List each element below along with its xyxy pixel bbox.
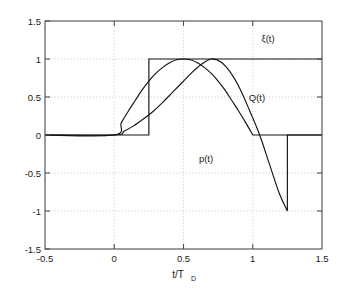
x-tick-labels: -0.5 0 0.5 1 1.5 <box>37 253 329 264</box>
ytick-label-1: 1 <box>36 54 41 65</box>
chart-plot: 1.5 1 0.5 0 -0.5 -1 -1.5 -0.5 0 0.5 1 1.… <box>0 0 349 296</box>
ytick-label-1-5: 1.5 <box>28 16 41 27</box>
p-curve-label: p(t) <box>199 153 213 164</box>
ytick-label-0-5: 0.5 <box>28 92 41 103</box>
q-curve-label: Q(t) <box>249 92 265 103</box>
figure-canvas: 1.5 1 0.5 0 -0.5 -1 -1.5 -0.5 0 0.5 1 1.… <box>0 0 349 296</box>
xtick-label-1: 1 <box>250 253 255 264</box>
ytick-label-neg-1: -1 <box>33 206 41 217</box>
x-axis-title: t/T D <box>172 269 196 282</box>
ytick-label-neg-0-5: -0.5 <box>25 168 41 179</box>
xi-curve-label: ξ(t) <box>261 33 274 44</box>
xtick-label-0-5: 0.5 <box>177 253 190 264</box>
xtick-label-0: 0 <box>112 253 117 264</box>
x-axis-title-main: t/T <box>172 269 184 280</box>
ytick-label-0: 0 <box>36 130 41 141</box>
xtick-label-1-5: 1.5 <box>315 253 328 264</box>
xtick-label-neg-0-5: -0.5 <box>37 253 53 264</box>
y-tick-labels: 1.5 1 0.5 0 -0.5 -1 -1.5 <box>25 16 41 255</box>
x-axis-title-subscript: D <box>191 275 196 282</box>
